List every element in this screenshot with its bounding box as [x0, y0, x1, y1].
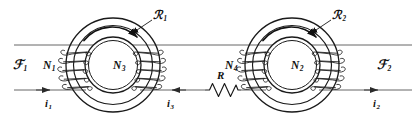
- label-current-i1: i1: [45, 99, 52, 111]
- reluctance-1-leader-line: [131, 20, 152, 34]
- label-reluctance-2: ℛ2: [332, 9, 346, 23]
- magnetic-circuit-figure: ℱ1 ℱ2 ℛ1 ℛ2 N1 N3 N4 N2 R i1 i3 i2: [0, 0, 420, 127]
- label-winding-n3: N3: [113, 60, 126, 73]
- label-reluctance-1: ℛ1: [153, 9, 167, 23]
- reluctance-2-leader-line: [310, 20, 331, 34]
- circuit-drawing-canvas: [0, 0, 420, 127]
- toroid-core-left: [58, 18, 166, 112]
- resistor-symbol: [206, 84, 240, 97]
- label-mmf-2: ℱ2: [377, 58, 391, 73]
- resistor-zigzag: [206, 84, 240, 97]
- label-winding-n1: N1: [43, 60, 56, 73]
- label-winding-n4: N4: [225, 60, 238, 73]
- label-mmf-1: ℱ1: [13, 58, 27, 73]
- label-current-i2: i2: [373, 99, 380, 111]
- label-winding-n2: N2: [291, 60, 304, 73]
- label-current-i3: i3: [167, 99, 174, 111]
- label-resistor: R: [217, 70, 224, 81]
